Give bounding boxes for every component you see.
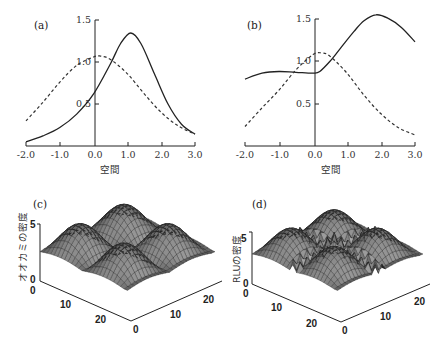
panel-b-ytick-label: 0.5 xyxy=(296,98,311,109)
panel-a-ytick-label: 1.5 xyxy=(76,14,91,25)
panel-d-left-tick: 0 xyxy=(243,288,249,299)
panel-b-xtick-label: -1.0 xyxy=(271,149,289,160)
panel-b-ytick-label: 1.0 xyxy=(296,55,311,66)
panel-a-xlabel: 空間 xyxy=(100,164,120,175)
panel-d-label: (d) xyxy=(252,198,267,210)
panel-b-ytick-label: 1.5 xyxy=(296,13,311,24)
panel-d-left-tick: 20 xyxy=(306,318,318,329)
panel-d-right-tick: 0 xyxy=(342,325,348,336)
panel-b-dashed-curve xyxy=(245,53,415,135)
panel-c-label: (c) xyxy=(33,198,47,210)
panel-a-xtick-label: 2.0 xyxy=(154,149,169,160)
panel-b-xtick-label: -2.0 xyxy=(236,149,254,160)
panel-b-xtick-label: 2.0 xyxy=(374,149,389,160)
panel-d-right-tick: 10 xyxy=(380,311,392,322)
panel-a-label: (a) xyxy=(34,19,48,31)
panel-d-surface xyxy=(252,210,423,291)
panel-a-dashed-curve xyxy=(26,56,195,134)
panel-a-xtick-label: -1.0 xyxy=(51,149,69,160)
panel-c-zlabel: オオカミの密度 xyxy=(17,212,28,282)
panel-c-right-tick: 10 xyxy=(170,309,182,320)
panel-d-left-tick: 10 xyxy=(271,302,283,313)
panel-a-xtick-label: 0.0 xyxy=(87,149,102,160)
panel-b: (b) 1.5 1.0 0.5 -2.0 -1.0 0.0 1.0 2.0 3.… xyxy=(236,13,423,175)
figure: (a) 1.5 1.0 0.5 -2.0 -1.0 0.0 1.0 2.0 3.… xyxy=(0,0,442,342)
panel-d-right-tick: 20 xyxy=(414,296,426,307)
panel-b-xlabel: 空間 xyxy=(321,164,341,175)
panel-c-left-axis xyxy=(40,281,131,321)
panel-b-solid-curve xyxy=(245,15,415,79)
panel-c-ztick: 5 xyxy=(30,219,36,230)
panel-b-xtick-label: 3.0 xyxy=(407,149,422,160)
panel-c-ztick: 0 xyxy=(30,274,36,285)
panel-c-left-tick: 20 xyxy=(95,314,107,325)
panel-b-xticks xyxy=(245,142,415,146)
panel-c-right-tick: 20 xyxy=(203,294,215,305)
panel-a-xtick-label: -2.0 xyxy=(17,149,35,160)
panel-d-left-axis xyxy=(252,284,341,322)
panel-a-xtick-label: 3.0 xyxy=(187,149,202,160)
panel-b-xtick-label: 0.0 xyxy=(307,149,322,160)
panel-d-ztick: 5 xyxy=(241,233,247,244)
panel-c-left-tick: 0 xyxy=(30,285,36,296)
panel-a-xtick-label: 1.0 xyxy=(120,149,135,160)
panel-a: (a) 1.5 1.0 0.5 -2.0 -1.0 0.0 1.0 2.0 3.… xyxy=(17,14,203,175)
panel-c-surface xyxy=(40,204,215,290)
panel-c-right-tick: 0 xyxy=(133,324,139,335)
panel-b-label: (b) xyxy=(247,19,262,31)
panel-a-xticks xyxy=(26,142,195,146)
panel-a-solid-curve xyxy=(26,33,195,142)
panel-d: (d) RLUの密度 5 0 0 10 20 0 10 20 xyxy=(231,198,430,336)
panel-c: (c) オオカミの密度 5 0 0 10 20 0 10 20 xyxy=(17,198,222,335)
panel-c-left-tick: 10 xyxy=(60,299,72,310)
panel-b-xtick-label: 1.0 xyxy=(340,149,355,160)
